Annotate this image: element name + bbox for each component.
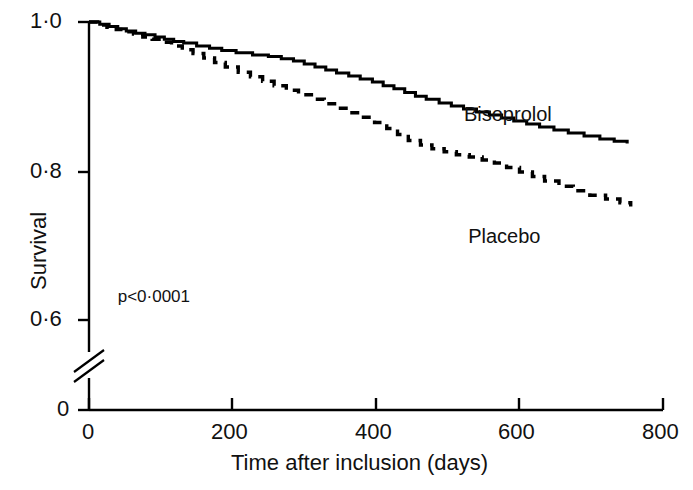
survival-chart-figure: 1·0 0·8 0·6 0 0 200 400 600 800 Survival… [0,0,693,490]
chart-canvas [0,0,693,490]
x-tick-label-800: 800 [642,419,679,445]
p-value-annotation: p<0·0001 [118,287,190,307]
y-tick-label-0: 0 [57,396,69,422]
x-tick-label-200: 200 [211,419,248,445]
y-tick-label-0-8: 0·8 [30,158,62,184]
y-tick-label-0-6: 0·6 [30,306,62,332]
x-axis-title: Time after inclusion (days) [231,450,488,476]
y-axis-title: Survival [26,212,52,290]
axis-break-slash-1 [74,350,104,372]
series-label-placebo: Placebo [468,225,540,248]
y-tick-label-1-0: 1·0 [30,8,62,34]
x-tick-label-0: 0 [82,419,94,445]
x-tick-label-600: 600 [498,419,535,445]
x-tick-label-400: 400 [355,419,392,445]
series-label-bisoprolol: Bisoprolol [464,103,552,126]
